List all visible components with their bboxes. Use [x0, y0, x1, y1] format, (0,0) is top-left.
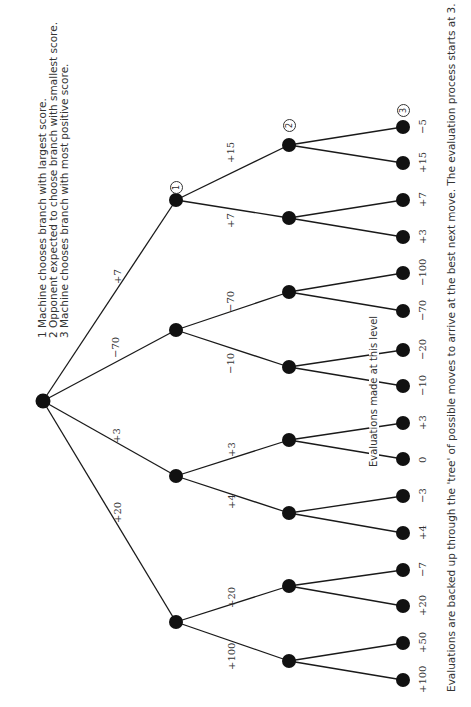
root-edge-label: +7: [113, 269, 123, 284]
leaf-value: −70: [418, 300, 428, 321]
level1-nodes: [169, 193, 183, 629]
leaf-value: −7: [418, 562, 428, 577]
level2-edge-label: +7: [226, 213, 236, 228]
leaf-value: +3: [418, 415, 428, 430]
leaf-value: +100: [418, 666, 428, 693]
leaf-value: −100: [418, 259, 428, 286]
root-node: [36, 394, 51, 409]
leaf-value: −5: [418, 119, 428, 134]
level2-nodes: [282, 138, 296, 668]
step-marker-2: 2: [283, 119, 296, 132]
level2-edge-label: +4: [227, 494, 237, 509]
leaf-nodes: [396, 120, 410, 687]
leaf-value: +50: [418, 632, 428, 653]
leaf-value: 0: [418, 457, 428, 463]
leaf-value: +15: [418, 152, 428, 173]
level2-edge-label: −70: [226, 291, 236, 312]
level2-edge-label: +3: [227, 442, 237, 457]
caption: Evaluations are backed up through the 't…: [446, 3, 456, 692]
leaf-value: +4: [418, 525, 428, 540]
level2-edge-label: +20: [227, 587, 237, 608]
leaf-value: +7: [418, 192, 428, 207]
root-edge-label: −70: [111, 337, 121, 358]
level2-edge-label: +15: [226, 142, 236, 163]
root-edge-label: +20: [113, 502, 123, 523]
root-edge-label: +3: [112, 428, 122, 443]
level2-edge-label: +100: [227, 643, 237, 670]
leaf-value: −3: [418, 488, 428, 503]
level-label: Evaluations made at this level: [369, 314, 379, 469]
legend-item-3: 3 Machine chooses branch with most posit…: [59, 64, 69, 338]
step-marker-1: 1: [170, 181, 183, 194]
step-marker-3: 3: [397, 104, 410, 117]
leaf-value: −10: [418, 375, 428, 396]
legend-item-2: 2 Opponent expected to choose branch wit…: [48, 22, 58, 338]
legend-item-1: 1 Machine chooses branch with largest sc…: [37, 98, 47, 338]
leaf-value: +3: [418, 229, 428, 244]
level2-edge-label: −10: [226, 353, 236, 374]
leaf-value: −20: [418, 339, 428, 360]
leaf-value: +20: [418, 595, 428, 616]
